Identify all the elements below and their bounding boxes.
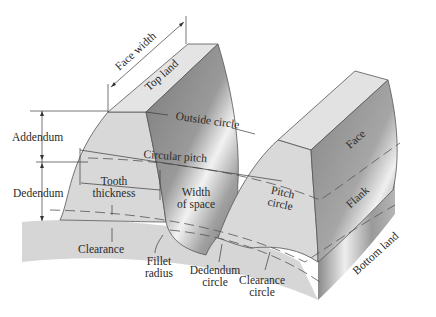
width-of-space-label-1: Width [182, 186, 211, 198]
fillet-radius-label-2: radius [145, 267, 174, 279]
clearance-label: Clearance [78, 243, 124, 255]
gear-tooth-diagram: Face width Top land Outside circle Adden… [0, 0, 436, 317]
tooth-thickness-label-1: Tooth [101, 175, 128, 187]
clearance-circle-label-1: Clearance [239, 274, 285, 286]
width-of-space-label-2: of space [177, 198, 215, 211]
fillet-radius-label-1: Fillet [147, 255, 172, 267]
addendum-label: Addendum [12, 131, 63, 143]
clearance-circle-label-2: circle [249, 286, 275, 298]
tooth-thickness-label-2: thickness [93, 187, 136, 199]
dedendum-circle-label-2: circle [202, 276, 228, 288]
dedendum-circle-label-1: Dedendum [190, 264, 241, 276]
dedendum-label: Dedendum [13, 187, 64, 199]
